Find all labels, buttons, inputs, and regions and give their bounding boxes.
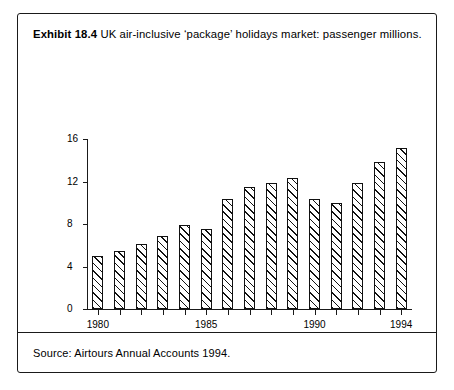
bar: [244, 187, 255, 309]
exhibit-label: Exhibit 18.4: [33, 28, 97, 40]
x-tick-mark: [401, 310, 402, 315]
bar: [287, 178, 298, 309]
bar: [136, 244, 147, 309]
bar: [114, 251, 125, 309]
bar: [266, 183, 277, 309]
bar: [352, 183, 363, 309]
y-tick-label: 4: [67, 261, 77, 273]
x-tick-mark: [120, 310, 121, 315]
bar: [396, 148, 407, 310]
y-tick-label: 12: [67, 176, 77, 188]
x-tick-mark: [228, 310, 229, 315]
y-tick-label: 8: [67, 218, 77, 230]
x-tick-label: 1994: [390, 319, 412, 331]
x-tick-mark: [250, 310, 251, 315]
bar: [92, 256, 103, 309]
bar: [157, 236, 168, 309]
bar: [222, 199, 233, 310]
y-tick-mark: [83, 182, 88, 183]
x-tick-mark: [380, 310, 381, 315]
x-tick-mark: [271, 310, 272, 315]
y-tick-mark: [83, 309, 88, 310]
bar: [331, 203, 342, 309]
y-tick-mark: [83, 139, 88, 140]
x-tick-mark: [206, 310, 207, 315]
x-tick-label: 1990: [303, 319, 325, 331]
x-tick-mark: [163, 310, 164, 315]
x-tick-mark: [358, 310, 359, 315]
x-tick-label: 1985: [195, 319, 217, 331]
plot-area: 0481216 1980198519901994: [87, 139, 412, 309]
y-tick-mark: [83, 224, 88, 225]
source-note: Source: Airtours Annual Accounts 1994.: [33, 346, 230, 360]
x-tick-mark: [185, 310, 186, 315]
exhibit-caption: Exhibit 18.4 UK air-inclusive ‘package’ …: [33, 27, 425, 42]
y-tick-mark: [83, 267, 88, 268]
x-tick-mark: [98, 310, 99, 315]
bar: [309, 199, 320, 310]
x-tick-label: 1980: [87, 319, 109, 331]
bar: [179, 225, 190, 309]
x-tick-mark: [315, 310, 316, 315]
x-tick-mark: [293, 310, 294, 315]
bar: [201, 229, 212, 309]
exhibit-frame: Exhibit 18.4 UK air-inclusive ‘package’ …: [17, 13, 437, 373]
x-tick-mark: [336, 310, 337, 315]
bar: [374, 162, 385, 309]
y-tick-label: 16: [67, 133, 77, 145]
y-tick-label: 0: [67, 303, 77, 315]
bar-chart: 0481216 1980198519901994: [18, 114, 438, 332]
x-tick-mark: [141, 310, 142, 315]
source-divider: [18, 332, 436, 333]
exhibit-caption-text: UK air-inclusive ‘package’ holidays mark…: [100, 28, 421, 40]
